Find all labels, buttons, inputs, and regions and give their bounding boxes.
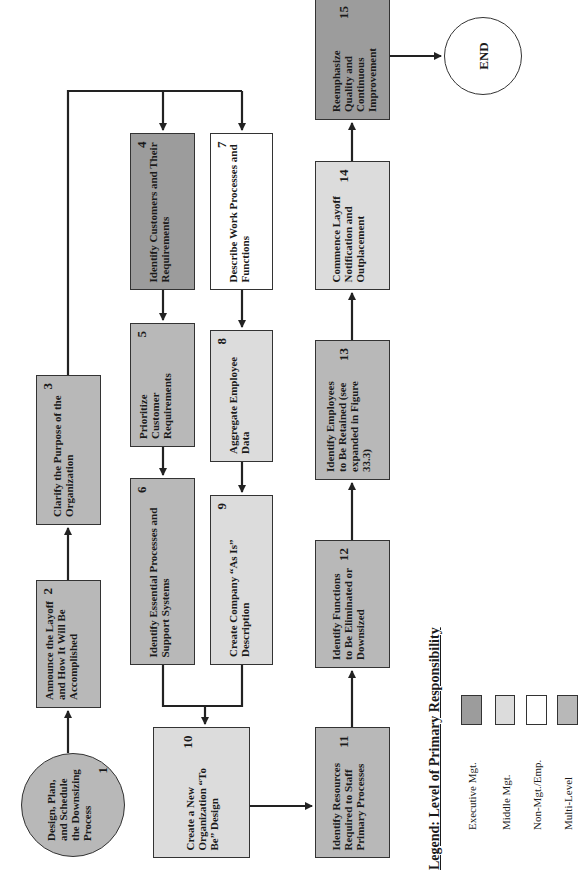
legend-label-non-mgt: Non-Mgt./Emp. (531, 760, 543, 830)
step-10-text: Create a New Organization “To Be” Design (183, 768, 219, 850)
step-4-identify-customers: Identify Customers and Their Requirement… (130, 133, 195, 290)
step-5-prioritize-requirements: Prioritize Customer Requirements 5 (130, 323, 195, 447)
step-11-identify-resources: Identify Resources Required to Staff Pri… (315, 727, 390, 858)
step-15-text: Reemphasize Quality and Continuous Impro… (329, 48, 377, 112)
step-14-commence-layoff-notification: Commence Layoff Notification and Outplac… (315, 161, 390, 290)
step-7-describe-work-processes: Describe Work Processes and Functions 7 (210, 133, 273, 290)
step-14-number: 14 (337, 169, 349, 182)
step-12-number: 12 (337, 548, 349, 561)
legend-swatch-middle (495, 695, 515, 725)
step-5-number: 5 (135, 331, 147, 338)
step-7-number: 7 (215, 141, 227, 148)
legend-title: Legend: Level of Primary Responsibility (427, 627, 443, 870)
end-label: END (476, 42, 491, 69)
step-6-identify-essential-processes: Identify Essential Processes and Support… (130, 478, 195, 665)
step-10-create-to-be-design: Create a New Organization “To Be” Design… (153, 727, 250, 858)
step-8-aggregate-employee-data: Aggregate Employee Data 8 (210, 330, 273, 462)
step-7-text: Describe Work Processes and Functions (226, 144, 250, 282)
step-12-text: Identify Functions to Be Eliminated or D… (329, 568, 365, 660)
step-15-number: 15 (337, 6, 349, 19)
step-4-text: Identify Customers and Their Requirement… (146, 142, 170, 282)
step-2-number: 2 (41, 588, 53, 595)
legend-label-middle: Middle Mgt. (500, 774, 512, 830)
step-1-number: 1 (97, 767, 109, 774)
step-5-text: Prioritize Customer Requirements (136, 373, 172, 439)
step-8-number: 8 (215, 338, 227, 345)
legend-label-executive: Executive Mgt. (466, 762, 478, 830)
step-9-number: 9 (215, 503, 227, 510)
legend-swatch-executive (461, 695, 482, 725)
step-9-text: Create Company “As Is” Description (226, 540, 250, 657)
step-11-number: 11 (337, 735, 349, 747)
step-12-identify-functions: Identify Functions to Be Eliminated or D… (315, 540, 390, 668)
step-10-number: 10 (181, 735, 193, 748)
step-11-text: Identify Resources Required to Staff Pri… (329, 763, 365, 850)
downsizing-process-flowchart: Design, Plan, and Schedule the Downsizin… (0, 0, 587, 880)
step-4-number: 4 (135, 141, 147, 148)
step-6-number: 6 (135, 486, 147, 493)
step-6-text: Identify Essential Processes and Support… (146, 507, 170, 657)
step-2-text: Announce the Layoff and How It Will Be A… (42, 601, 78, 700)
step-3-clarify-purpose: Clarify the Purpose of the Organization … (36, 375, 101, 525)
step-15-reemphasize-quality: Reemphasize Quality and Continuous Impro… (315, 0, 390, 120)
step-1-text: Design, Plan, and Schedule the Downsizin… (45, 769, 93, 841)
step-3-number: 3 (41, 383, 53, 390)
step-1-design-plan-schedule: Design, Plan, and Schedule the Downsizin… (21, 753, 125, 857)
legend-label-multi-level: Multi-Level (562, 777, 574, 830)
step-2-announce-layoff: Announce the Layoff and How It Will Be A… (36, 580, 101, 708)
step-3-text: Clarify the Purpose of the Organization (50, 395, 74, 517)
step-13-number: 13 (337, 348, 349, 361)
step-13-text: Identify Employees to Be Retained (see e… (323, 381, 371, 472)
step-13-identify-employees-retained: Identify Employees to Be Retained (see e… (315, 340, 390, 480)
step-9-create-as-is-description: Create Company “As Is” Description 9 (210, 495, 273, 665)
step-8-text: Aggregate Employee Data (226, 357, 250, 454)
end-terminal: END (444, 17, 522, 95)
legend-swatch-multi-level (557, 695, 578, 725)
step-14-text: Commence Layoff Notification and Outplac… (329, 196, 365, 282)
legend-swatch-non-mgt (526, 695, 547, 725)
